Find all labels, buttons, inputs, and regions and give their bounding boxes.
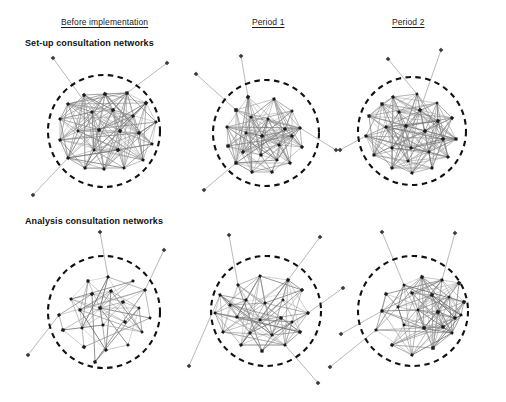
network-node bbox=[422, 326, 425, 329]
outlier-node bbox=[339, 332, 343, 336]
outlier-edge bbox=[382, 232, 404, 285]
edge bbox=[433, 333, 452, 348]
outlier-node bbox=[380, 230, 384, 234]
network-node bbox=[381, 310, 384, 313]
network-node bbox=[441, 279, 444, 282]
edge bbox=[398, 307, 404, 325]
network-node bbox=[417, 309, 419, 311]
network-figure: Before implementation Period 1 Period 2 … bbox=[0, 0, 506, 402]
network-panel-analysis-period-2 bbox=[0, 0, 506, 402]
edge bbox=[376, 330, 452, 333]
edge bbox=[412, 310, 418, 355]
edge bbox=[382, 310, 418, 311]
outlier-edge bbox=[330, 330, 376, 367]
edge bbox=[412, 333, 452, 355]
network-node bbox=[431, 346, 434, 349]
network-node bbox=[430, 293, 434, 297]
edge-group bbox=[376, 277, 464, 355]
network-node bbox=[460, 314, 463, 317]
network-node bbox=[436, 310, 440, 314]
network-node bbox=[403, 324, 405, 326]
network-node bbox=[441, 325, 444, 328]
network-node bbox=[375, 329, 378, 332]
network-node bbox=[403, 284, 405, 286]
network-node bbox=[410, 291, 413, 294]
outlier-edge bbox=[442, 233, 455, 280]
outlier-node bbox=[453, 231, 457, 235]
outlier-group bbox=[328, 230, 457, 369]
network-node bbox=[453, 316, 456, 319]
